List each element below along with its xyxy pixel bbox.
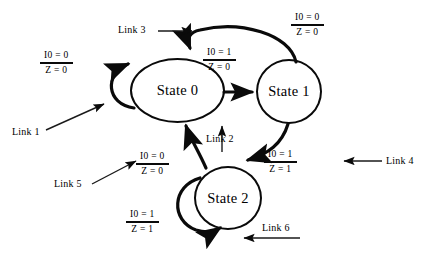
transition-output-value: Z = 0 <box>41 65 71 76</box>
callout-label-link5[interactable]: Link 5 <box>54 178 82 189</box>
transition-input-condition: I0 = 0 <box>40 50 73 61</box>
transition-label-state1-to-state0: I0 = 0 Z = 0 <box>291 12 324 38</box>
callout-label-link6[interactable]: Link 6 <box>262 222 290 233</box>
transition-label-state2-selfloop: I0 = 1 Z = 1 <box>126 209 159 235</box>
state-label-state2: State 2 <box>207 190 248 207</box>
fraction-bar <box>136 163 169 165</box>
callout-label-link1[interactable]: Link 1 <box>12 126 40 137</box>
fraction-bar <box>126 221 159 223</box>
state-label-state0: State 0 <box>157 82 198 99</box>
fraction-bar <box>291 24 324 26</box>
transition-input-condition: I0 = 1 <box>126 209 159 220</box>
transition-output-value: Z = 0 <box>204 62 234 73</box>
transition-input-condition: I0 = 1 <box>264 149 297 160</box>
callout-label-link3[interactable]: Link 3 <box>118 24 146 35</box>
transition-output-value: Z = 1 <box>265 164 295 175</box>
transition-label-state2-to-state0: I0 = 0 Z = 0 <box>136 151 169 177</box>
callout-pointer-link1 <box>46 104 104 130</box>
fraction-bar <box>264 161 297 163</box>
transition-arc-state2-to-state0 <box>186 126 206 168</box>
state-node-state1[interactable]: State 1 <box>256 59 322 124</box>
callout-pointer-link5 <box>92 161 136 184</box>
callout-label-link4[interactable]: Link 4 <box>386 155 414 166</box>
callout-label-link2[interactable]: Link 2 <box>206 133 234 144</box>
transition-output-value: Z = 0 <box>137 166 167 177</box>
state-node-state2[interactable]: State 2 <box>194 166 262 230</box>
fraction-bar <box>40 62 73 64</box>
state-diagram-canvas: State 0 State 1 State 2 I0 = 0 Z = 0 I0 … <box>0 0 426 258</box>
transition-label-state1-to-state2: I0 = 1 Z = 1 <box>264 149 297 175</box>
transition-label-state0-selfloop: I0 = 0 Z = 0 <box>40 50 73 76</box>
fraction-bar <box>203 59 236 61</box>
transition-input-condition: I0 = 0 <box>291 12 324 23</box>
transition-output-value: Z = 1 <box>127 224 157 235</box>
transition-input-condition: I0 = 1 <box>203 47 236 58</box>
transition-input-condition: I0 = 0 <box>136 151 169 162</box>
transition-label-state0-to-state1: I0 = 1 Z = 0 <box>203 47 236 73</box>
transition-output-value: Z = 0 <box>292 27 322 38</box>
state-label-state1: State 1 <box>268 83 309 100</box>
